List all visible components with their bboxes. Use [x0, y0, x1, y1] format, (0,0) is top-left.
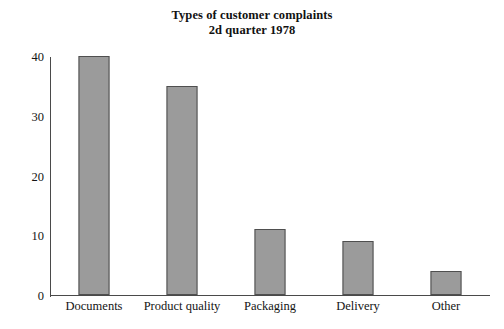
bar[interactable]: [343, 241, 374, 295]
chart-title: Types of customer complaints: [0, 8, 504, 23]
bar-slot: [50, 56, 138, 295]
y-axis-tick-labels: 010203040: [8, 57, 44, 296]
bar-slot: [314, 56, 402, 295]
chart-title-block: Types of customer complaints 2d quarter …: [0, 8, 504, 38]
bar[interactable]: [431, 271, 462, 295]
bar[interactable]: [79, 56, 110, 295]
y-axis-tick-label: 30: [10, 111, 44, 124]
x-axis-tick-label: Other: [391, 300, 501, 314]
chart-subtitle: 2d quarter 1978: [0, 23, 504, 38]
x-axis-line: [50, 295, 490, 296]
bar-slot: [402, 56, 490, 295]
bar-slot: [138, 56, 226, 295]
y-axis-tick-label: 40: [10, 51, 44, 64]
y-axis-tick-label: 20: [10, 171, 44, 184]
x-axis-tick-labels: DocumentsProduct qualityPackagingDeliver…: [50, 300, 490, 322]
plot-area: [50, 57, 490, 296]
bar-slot: [226, 56, 314, 295]
y-axis-tick-label: 10: [10, 230, 44, 243]
bar[interactable]: [167, 86, 198, 295]
bar-chart-figure: Types of customer complaints 2d quarter …: [0, 0, 504, 329]
bar[interactable]: [255, 229, 286, 295]
